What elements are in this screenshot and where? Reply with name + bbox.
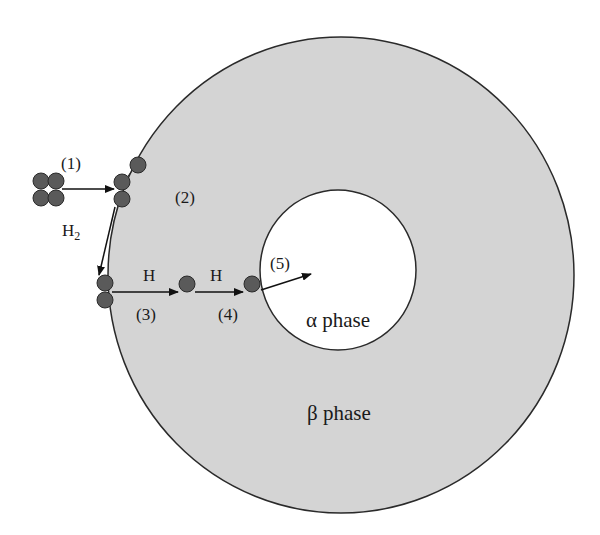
h2-label-subscript: 2: [74, 229, 80, 243]
atom-icon: [48, 190, 64, 206]
atom-icon: [97, 292, 113, 308]
step1-label: (1): [61, 154, 81, 173]
atom-icon: [97, 275, 113, 291]
h-label-step3: H: [143, 266, 155, 285]
atom-icon: [33, 190, 49, 206]
h2-gas-molecules: [33, 173, 64, 206]
h-atom-icon: [244, 276, 260, 292]
h-atom-icon: [179, 276, 195, 292]
atom-icon: [33, 173, 49, 189]
step5-label: (5): [270, 254, 290, 273]
step4-label: (4): [218, 305, 238, 324]
h-label-step4: H: [210, 266, 222, 285]
h2-label: H2: [62, 221, 80, 243]
alpha-phase-label: α phase: [306, 308, 370, 332]
atom-icon: [114, 174, 130, 190]
beta-phase-label: β phase: [307, 401, 371, 425]
atom-icon: [130, 157, 146, 173]
atom-icon: [48, 173, 64, 189]
step2-label: (2): [175, 188, 195, 207]
atom-icon: [114, 191, 130, 207]
hydrogen-absorption-diagram: (1) (2) H2 H H (3) (4) (5) α phase β pha…: [0, 0, 600, 535]
h2-label-main: H: [62, 221, 74, 240]
step3-label: (3): [136, 305, 156, 324]
